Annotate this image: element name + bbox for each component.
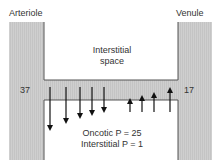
venule-pressure-value: 17 (184, 85, 194, 96)
pressure-values-text: Oncotic P = 25 Interstitial P = 1 (72, 128, 152, 150)
interstitial-line-1: Interstitial (80, 45, 144, 56)
arteriole-pressure-value: 37 (20, 85, 30, 96)
capillary-exchange-diagram: Arteriole Venule Interstitial space 37 1… (0, 0, 216, 167)
interstitial-space-label: Interstitial space (80, 45, 144, 67)
interstitial-line-2: space (80, 56, 144, 67)
interstitial-pressure: Interstitial P = 1 (72, 139, 152, 150)
oncotic-pressure: Oncotic P = 25 (72, 128, 152, 139)
venule-label: Venule (176, 8, 204, 19)
arteriole-label: Arteriole (9, 8, 43, 19)
